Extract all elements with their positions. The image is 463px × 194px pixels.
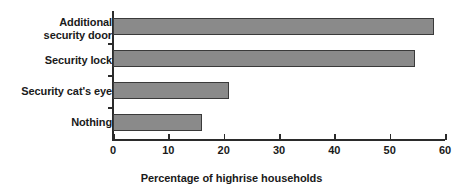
x-tick-label: 10 (148, 144, 188, 156)
x-tick-mark (279, 134, 281, 140)
category-label-security-lock: Security lock (0, 54, 112, 67)
x-axis-title: Percentage of highrise households (0, 172, 463, 184)
bar (113, 18, 434, 35)
y-tick-mark (108, 43, 113, 45)
y-tick-mark (108, 75, 113, 77)
category-label-security-cats-eye: Security cat's eye (0, 85, 112, 98)
x-tick-mark (168, 134, 170, 140)
x-tick-label: 0 (93, 144, 133, 156)
bar-chart: Additional security door Security lock S… (0, 0, 463, 194)
plot-area: 0102030405060 (113, 11, 445, 139)
x-tick-mark (445, 134, 447, 140)
bar (113, 114, 202, 131)
x-tick-mark (224, 134, 226, 140)
x-tick-mark (390, 134, 392, 140)
x-tick-label: 30 (259, 144, 299, 156)
y-tick-mark (108, 107, 113, 109)
x-tick-label: 60 (425, 144, 463, 156)
x-tick-label: 20 (204, 144, 244, 156)
bar (113, 82, 229, 99)
category-label-additional-security-door: Additional security door (0, 16, 112, 41)
bar (113, 50, 415, 67)
x-tick-mark (113, 134, 115, 140)
x-tick-label: 40 (314, 144, 354, 156)
x-tick-label: 50 (370, 144, 410, 156)
x-tick-mark (334, 134, 336, 140)
category-label-nothing: Nothing (0, 116, 112, 129)
